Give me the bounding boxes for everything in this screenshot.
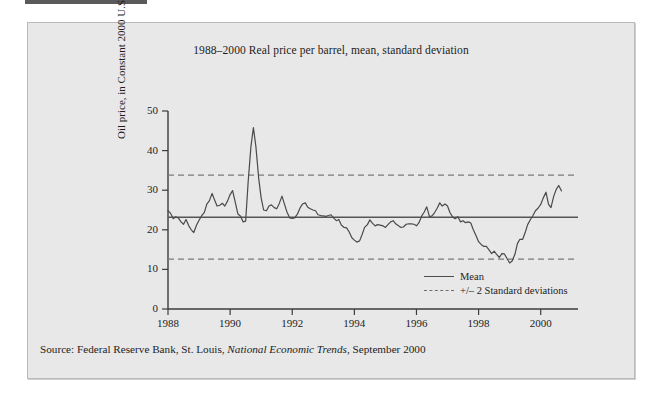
x-tick-label: 1990 — [210, 317, 250, 329]
y-tick-label: 20 — [132, 223, 158, 235]
x-tick-label: 2000 — [521, 317, 561, 329]
source-publication: National Economic Trends — [227, 343, 347, 355]
y-tick-label: 0 — [132, 302, 158, 314]
source-prefix: Source: Federal Reserve Bank, St. Louis, — [40, 343, 227, 355]
source-suffix: , September 2000 — [347, 343, 426, 355]
y-tick-label: 50 — [132, 104, 158, 116]
legend-solid-line-icon — [424, 276, 454, 277]
y-tick-label: 30 — [132, 183, 158, 195]
cropped-header-bar — [25, 0, 147, 4]
chart-legend: Mean+/– 2 Standard deviations — [424, 269, 568, 297]
source-note: Source: Federal Reserve Bank, St. Louis,… — [40, 343, 620, 355]
series-group — [168, 128, 562, 263]
x-tick-label: 1994 — [334, 317, 374, 329]
figure-panel: 1988–2000 Real price per barrel, mean, s… — [27, 22, 635, 379]
x-tick-label: 1992 — [272, 317, 312, 329]
y-axis-title: Oil price, in Constant 2000 U.S.$ — [115, 0, 127, 139]
legend-label: Mean — [460, 271, 484, 282]
y-tick-label: 10 — [132, 262, 158, 274]
x-tick-label: 1996 — [396, 317, 436, 329]
legend-item: Mean — [424, 269, 568, 283]
y-tick-label: 40 — [132, 144, 158, 156]
legend-dashed-line-icon — [424, 290, 454, 291]
plot-area: Oil price, in Constant 2000 U.S.$ 010203… — [141, 83, 591, 333]
legend-label: +/– 2 Standard deviations — [460, 285, 568, 296]
x-tick-label: 1988 — [148, 317, 188, 329]
x-tick-label: 1998 — [459, 317, 499, 329]
legend-item: +/– 2 Standard deviations — [424, 283, 568, 297]
